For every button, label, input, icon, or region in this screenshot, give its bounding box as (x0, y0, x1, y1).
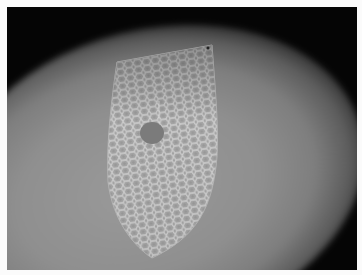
photograph (7, 7, 357, 270)
mesh-hole (140, 122, 164, 144)
image-border (0, 0, 362, 275)
mesh-object (7, 7, 357, 270)
